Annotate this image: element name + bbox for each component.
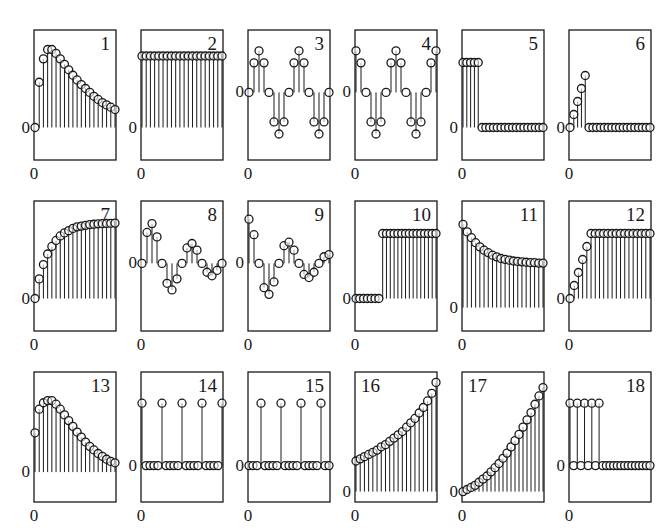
stem-marker <box>566 124 574 132</box>
x-zero-label: 0 <box>244 506 253 525</box>
stem-marker <box>44 250 52 258</box>
stem-marker <box>154 462 162 470</box>
stem-marker <box>193 246 201 254</box>
stem-panel-8: 008 <box>129 201 227 354</box>
stem-marker <box>372 130 380 138</box>
stem-marker <box>143 228 151 236</box>
x-zero-label: 0 <box>458 164 467 183</box>
stem-marker <box>290 246 298 254</box>
stem-marker <box>402 88 410 96</box>
stem-marker <box>313 462 321 470</box>
x-zero-label: 0 <box>137 335 146 354</box>
stem-marker <box>275 259 283 267</box>
panel-number-label: 6 <box>636 33 646 54</box>
stem-marker <box>583 243 591 251</box>
stem-marker <box>31 295 39 303</box>
stem-marker <box>297 399 305 407</box>
x-zero-label: 0 <box>351 164 360 183</box>
stem-panel-5: 005 <box>450 30 548 183</box>
stem-panel-4: 004 <box>343 30 441 183</box>
y-zero-label: 0 <box>450 482 459 501</box>
stem-marker <box>35 78 43 86</box>
panel-number-label: 9 <box>315 204 325 225</box>
stem-marker <box>280 118 288 126</box>
stem-marker <box>270 118 278 126</box>
stem-marker <box>531 400 539 408</box>
y-zero-label: 0 <box>343 289 352 308</box>
stem-marker <box>198 259 206 267</box>
stem-marker <box>153 233 161 241</box>
stem-panel-16: 0016 <box>343 372 441 525</box>
stem-marker <box>273 462 281 470</box>
stem-marker <box>214 462 222 470</box>
stem-panel-2: 002 <box>129 30 227 183</box>
stem-panel-9: 009 <box>236 201 334 354</box>
x-zero-label: 0 <box>458 335 467 354</box>
stem-marker <box>375 295 383 303</box>
stem-marker <box>377 118 385 126</box>
stem-marker <box>218 399 226 407</box>
stem-marker <box>138 399 146 407</box>
y-zero-label: 0 <box>22 462 31 481</box>
stem-marker <box>595 399 603 407</box>
stem-marker <box>111 459 119 467</box>
stem-marker <box>570 111 578 119</box>
stem-marker <box>646 124 654 132</box>
stem-marker <box>111 106 119 114</box>
stem-marker <box>245 88 253 96</box>
panel-number-label: 10 <box>412 204 431 225</box>
panel-number-label: 2 <box>208 33 218 54</box>
stem-marker <box>432 230 440 238</box>
stem-marker <box>253 462 261 470</box>
stem-marker <box>198 399 206 407</box>
x-zero-label: 0 <box>565 164 574 183</box>
stem-marker <box>570 282 578 290</box>
x-zero-label: 0 <box>565 506 574 525</box>
stem-marker <box>422 88 430 96</box>
x-zero-label: 0 <box>30 335 39 354</box>
panel-number-label: 13 <box>91 375 110 396</box>
y-zero-label: 0 <box>129 456 138 475</box>
stem-marker <box>539 384 547 392</box>
stem-panel-17: 0017 <box>450 372 548 525</box>
panel-number-label: 4 <box>422 33 432 54</box>
stem-plots-canvas: 0010020030040050060070080090010001100120… <box>0 0 663 532</box>
stem-marker <box>574 98 582 106</box>
stem-marker <box>579 256 587 264</box>
stem-marker <box>367 118 375 126</box>
y-zero-label: 0 <box>236 82 245 101</box>
x-zero-label: 0 <box>30 164 39 183</box>
stem-marker <box>265 290 273 298</box>
stem-marker <box>310 268 318 276</box>
panel-number-label: 3 <box>315 33 325 54</box>
stem-marker <box>257 399 265 407</box>
stem-marker <box>158 399 166 407</box>
panel-number-label: 14 <box>198 375 218 396</box>
x-zero-label: 0 <box>244 164 253 183</box>
stem-marker <box>178 259 186 267</box>
x-zero-label: 0 <box>137 506 146 525</box>
x-zero-label: 0 <box>565 335 574 354</box>
panel-number-label: 8 <box>208 204 218 225</box>
stem-panel-10: 0010 <box>343 201 441 354</box>
stem-marker <box>407 118 415 126</box>
stem-marker <box>158 259 166 267</box>
panel-number-label: 18 <box>626 375 645 396</box>
x-zero-label: 0 <box>351 506 360 525</box>
stem-marker <box>646 462 654 470</box>
stem-marker <box>474 59 482 67</box>
panel-number-label: 16 <box>361 375 380 396</box>
y-zero-label: 0 <box>236 253 245 272</box>
stem-marker <box>459 220 467 228</box>
x-zero-label: 0 <box>351 335 360 354</box>
stem-marker <box>270 278 278 286</box>
stem-marker <box>111 219 119 227</box>
stem-marker <box>35 275 43 283</box>
panel-number-label: 11 <box>520 204 538 225</box>
stem-plot-grid: 0010020030040050060070080090010001100120… <box>0 0 663 532</box>
y-zero-label: 0 <box>450 298 459 317</box>
stem-panel-14: 0014 <box>129 372 227 525</box>
y-zero-label: 0 <box>129 118 138 137</box>
stem-marker <box>168 286 176 294</box>
stem-marker <box>174 462 182 470</box>
